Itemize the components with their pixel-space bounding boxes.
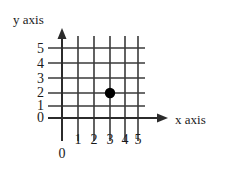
x-tick-label-4: 4 — [119, 133, 131, 147]
x-axis-label: x axis — [175, 113, 206, 126]
x-axis-line — [48, 114, 168, 123]
x-origin-label: 0 — [56, 147, 68, 161]
y-axis-arrowhead — [58, 28, 67, 39]
x-tick-label-5: 5 — [132, 133, 144, 147]
y-axis-label: y axis — [13, 13, 44, 26]
y-tick-label-3: 3 — [30, 72, 44, 86]
y-tick-label-0: 0 — [30, 111, 44, 125]
x-tick-label-3: 3 — [104, 133, 116, 147]
x-tick-label-2: 2 — [88, 133, 100, 147]
y-tick-label-4: 4 — [30, 57, 44, 71]
x-tick-label-1: 1 — [72, 133, 84, 147]
y-tick-label-5: 5 — [30, 42, 44, 56]
data-point — [105, 88, 115, 98]
x-axis-arrowhead — [157, 114, 168, 123]
y-axis-line — [58, 28, 67, 141]
figure-canvas: y axis x axis 5 4 3 2 1 0 1 2 3 4 5 0 — [0, 0, 226, 170]
